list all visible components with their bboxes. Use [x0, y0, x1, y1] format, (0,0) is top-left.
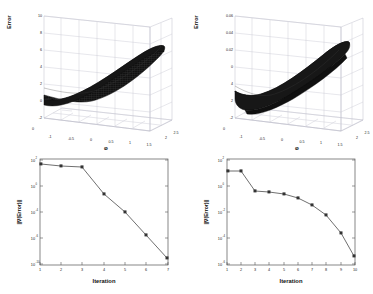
svg-text:0: 0 [36, 182, 38, 186]
svg-text:-2: -2 [230, 116, 233, 120]
svg-text:2: 2 [223, 156, 225, 160]
svg-text:4: 4 [40, 65, 42, 69]
svg-text:0: 0 [90, 138, 92, 142]
svg-text:-6: -6 [36, 234, 39, 238]
svg-text:-6: -6 [223, 260, 226, 264]
svg-text:2: 2 [240, 268, 242, 272]
svg-text:10: 10 [218, 159, 222, 163]
svg-text:0.06: 0.06 [226, 14, 233, 18]
svg-text:6: 6 [297, 268, 299, 272]
svg-text:4: 4 [103, 268, 105, 272]
svg-text:2: 2 [231, 99, 233, 103]
svg-text:-4: -4 [223, 234, 226, 238]
convergence-left-canvas: 102 100 10-4 10-6 10-10 1 2 3 4 5 6 7 [0, 150, 186, 294]
svg-text:0.04: 0.04 [226, 31, 233, 35]
convergence-right-canvas: 102 100 10-2 10-4 10-6 1 2 3 4 5 6 7 8 9… [187, 150, 373, 294]
svg-text:10: 10 [218, 237, 222, 241]
svg-text:3: 3 [81, 268, 83, 272]
svg-text:8: 8 [325, 268, 327, 272]
panel-surface-left: Error [0, 0, 186, 150]
svg-text:3: 3 [254, 268, 256, 272]
svg-text:-2: -2 [223, 208, 226, 212]
svg-text:0.02: 0.02 [226, 48, 233, 52]
svg-text:2: 2 [60, 268, 62, 272]
svg-text:10: 10 [31, 185, 35, 189]
svg-text:0: 0 [231, 65, 233, 69]
svg-text:1.5: 1.5 [338, 143, 343, 147]
svg-text:4: 4 [231, 82, 233, 86]
panel-convergence-left: 102 100 10-4 10-6 10-10 1 2 3 4 5 6 7 [0, 150, 186, 294]
convergence-right-line [228, 171, 354, 256]
figure-root: Error [0, 0, 373, 294]
svg-text:0: 0 [40, 99, 42, 103]
svg-text:2.5: 2.5 [365, 131, 370, 135]
svg-text:2: 2 [165, 136, 167, 140]
svg-text:-10: -10 [36, 260, 40, 264]
svg-text:0: 0 [32, 127, 34, 131]
svg-text:10: 10 [31, 159, 35, 163]
svg-text:-0.5: -0.5 [68, 137, 74, 141]
svg-text:0.5: 0.5 [109, 140, 114, 144]
panel-surface-right: Error [187, 0, 373, 150]
surface-left-canvas: 10 8 6 4 2 0 -2 0 -1 -0.5 0 0.5 1 1.5 2 [0, 0, 186, 150]
svg-text:2: 2 [40, 82, 42, 86]
convergence-left-line [41, 164, 167, 258]
svg-text:7: 7 [167, 268, 169, 272]
svg-text:-1: -1 [48, 135, 51, 139]
svg-text:10: 10 [31, 237, 35, 241]
svg-text:-1: -1 [239, 135, 242, 139]
svg-text:9: 9 [340, 268, 342, 272]
svg-text:0: 0 [281, 138, 283, 142]
convergence-left-ylabel: ||∇(Error)|| [16, 199, 22, 224]
svg-text:5: 5 [124, 268, 126, 272]
svg-text:2.5: 2.5 [174, 131, 179, 135]
svg-text:1: 1 [226, 268, 228, 272]
svg-text:5: 5 [283, 268, 285, 272]
svg-text:-4: -4 [36, 208, 39, 212]
svg-text:4: 4 [268, 268, 270, 272]
convergence-left-markers [39, 162, 168, 259]
svg-text:6: 6 [145, 268, 147, 272]
svg-text:0: 0 [223, 127, 225, 131]
convergence-right-ylabel: ||∇(Error)|| [203, 199, 209, 224]
svg-text:10: 10 [38, 14, 42, 18]
svg-text:7: 7 [311, 268, 313, 272]
panel-convergence-right: 102 100 10-2 10-4 10-6 1 2 3 4 5 6 7 8 9… [187, 150, 373, 294]
convergence-right-markers [226, 169, 355, 257]
svg-text:-2: -2 [39, 116, 42, 120]
svg-text:0: 0 [223, 182, 225, 186]
svg-text:10: 10 [218, 185, 222, 189]
svg-text:10: 10 [31, 263, 35, 267]
svg-text:10: 10 [31, 211, 35, 215]
svg-text:10: 10 [218, 263, 222, 267]
svg-text:1: 1 [320, 141, 322, 145]
convergence-left-xlabel: Iteration [93, 278, 116, 284]
svg-text:10: 10 [218, 211, 222, 215]
svg-text:8: 8 [40, 31, 42, 35]
svg-text:0.5: 0.5 [300, 140, 305, 144]
svg-text:1.5: 1.5 [147, 143, 152, 147]
svg-text:2: 2 [36, 156, 38, 160]
svg-text:-0.5: -0.5 [259, 137, 265, 141]
svg-text:10: 10 [353, 268, 357, 272]
convergence-right-xlabel: Iteration [280, 278, 303, 284]
svg-text:1: 1 [129, 141, 131, 145]
surface-right-canvas: 0.06 0.04 0.02 0 4 2 -2 0 -1 -0.5 0 0.5 … [187, 0, 373, 150]
svg-text:6: 6 [40, 48, 42, 52]
svg-text:1: 1 [39, 268, 41, 272]
surface-left-mesh [44, 45, 165, 106]
svg-text:2: 2 [356, 136, 358, 140]
